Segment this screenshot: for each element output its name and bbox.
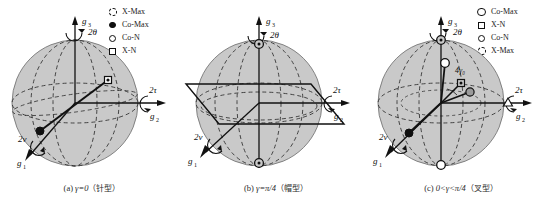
- axis-g1-arrow: [385, 145, 395, 158]
- x-max-icon: [106, 6, 119, 18]
- rotation-label-2nu: 2ν: [18, 134, 27, 144]
- legend-item: X-N: [106, 45, 149, 57]
- x-n-icon: [106, 45, 119, 57]
- axis-g2-arrow: [341, 100, 350, 106]
- rotation-label-2tau: 2τ: [333, 85, 342, 95]
- marker-x-n-center: [106, 78, 109, 81]
- marker-co-n-south: [437, 161, 446, 170]
- panel-c: g 3 2θ 2τ g 2 2ν g 1 4γ₀ Co-Max Co-N Co-…: [369, 0, 553, 215]
- marker-co-s: [466, 88, 474, 96]
- axis-label-g2-sub: 2: [156, 117, 159, 123]
- figure-container: g 3 2θ 2τ g 2 2ν g 1 X-Max Co-Max Co-N: [0, 0, 553, 215]
- rotation-label-2nu: 2ν: [194, 132, 203, 142]
- rotation-label-2nu: 2ν: [379, 132, 388, 142]
- co-n-icon: [106, 32, 119, 44]
- legend-label: X-Max: [122, 8, 145, 16]
- rotation-arrow-2theta: [260, 32, 267, 36]
- rotation-label-2theta: 2θ: [453, 27, 463, 37]
- caption-cn: （叉型）: [466, 184, 498, 193]
- rotation-label-2theta: 2θ: [270, 30, 280, 40]
- marker-south-center: [258, 162, 261, 165]
- axis-label-g3-sub: 3: [272, 22, 275, 28]
- marker-north-center: [440, 39, 443, 42]
- axis-label-g2-sub: 2: [522, 117, 525, 123]
- caption-formula: γ=0: [75, 183, 88, 193]
- axis-label-g1-sub: 1: [379, 162, 382, 168]
- marker-north-center: [258, 43, 261, 46]
- caption-index: (b): [244, 183, 254, 193]
- axis-label-g2: g: [516, 111, 521, 121]
- axis-g1-arrow: [200, 145, 210, 158]
- marker-co-max: [36, 127, 44, 135]
- caption-index: (a): [64, 183, 73, 193]
- co-max-icon: [106, 19, 119, 31]
- caption-cn: （针型）: [88, 184, 120, 193]
- marker-x-s: [504, 98, 513, 106]
- panel-a: g 3 2θ 2τ g 2 2ν g 1 X-Max Co-Max Co-N: [0, 0, 184, 215]
- caption-panel-c: (c) 0<γ<π/4（叉型）: [369, 182, 553, 193]
- axis-label-g2: g: [334, 111, 339, 121]
- axis-g2-arrow: [157, 100, 166, 106]
- axis-label-g3: g: [82, 16, 87, 26]
- axis-g3-arrow: [438, 16, 444, 25]
- rotation-label-2tau: 2τ: [149, 85, 158, 95]
- axis-label-g2: g: [150, 111, 155, 121]
- axis-g3-arrow: [72, 16, 78, 25]
- axis-label-g1: g: [17, 158, 22, 168]
- axis-label-g1: g: [188, 156, 193, 166]
- caption-formula: 0<γ<π/4: [436, 183, 466, 193]
- caption-formula: γ=π/4: [256, 183, 276, 193]
- axis-g1-arrow: [25, 149, 34, 161]
- caption-panel-b: (b) γ=π/4（帽型）: [184, 182, 368, 193]
- legend-panel-a: X-Max Co-Max Co-N X-N: [106, 6, 149, 58]
- marker-co-max: [405, 129, 413, 137]
- legend-item: Co-Max: [106, 19, 149, 31]
- marker-x-n-center: [460, 82, 463, 85]
- angle-annotation-label: 4γ₀: [455, 66, 465, 75]
- rotation-label-2theta: 2θ: [88, 27, 98, 37]
- rotation-label-2tau: 2τ: [515, 85, 524, 95]
- marker-co-n: [441, 59, 450, 68]
- legend-label: Co-Max: [122, 21, 149, 29]
- caption-cn: （帽型）: [276, 184, 308, 193]
- axis-label-g1: g: [373, 156, 378, 166]
- axis-label-g1-sub: 1: [194, 162, 197, 168]
- legend-item: Co-N: [106, 32, 149, 44]
- axis-g3-arrow: [256, 16, 262, 25]
- rotation-arrow-2theta: [78, 29, 85, 33]
- axis-label-g2-sub: 2: [340, 117, 343, 123]
- axis-label-g3: g: [448, 16, 453, 26]
- legend-label: Co-N: [122, 34, 140, 42]
- axis-label-g1-sub: 1: [23, 164, 26, 170]
- panel-b: g 3 2θ 2τ g 2 2ν g 1 Co-Max X-N Co-N: [184, 0, 368, 215]
- legend-label: X-N: [122, 47, 136, 55]
- legend-item: X-Max: [106, 6, 149, 18]
- caption-index: (c): [424, 183, 433, 193]
- caption-panel-a: (a) γ=0（针型）: [0, 182, 184, 193]
- axis-label-g3: g: [266, 16, 271, 26]
- axis-g2-arrow: [523, 100, 532, 106]
- rotation-arrow-2theta: [442, 29, 449, 33]
